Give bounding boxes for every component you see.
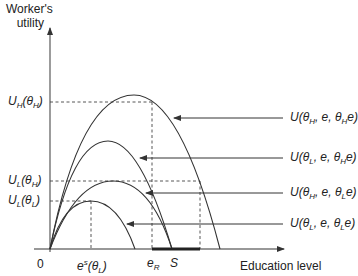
tick-es-thetaL: es(θL) — [77, 256, 107, 276]
tick-eR: eR — [147, 256, 159, 275]
curve-label-1: U(θH, e, θHe) — [290, 110, 358, 129]
tick-UL-thetaH: UL(θH) — [8, 173, 41, 192]
y-axis-label: Worker's utility — [6, 2, 44, 30]
tick-UL-thetaL: UL(θL) — [8, 193, 40, 212]
curve-thetaL-thetaL — [50, 201, 135, 249]
curve-label-3: U(θH, e, θLe) — [290, 185, 357, 204]
y-axis-label-line1: Worker's — [6, 2, 44, 16]
curve-thetaH-thetaL — [50, 181, 172, 249]
curve-thetaL-thetaH — [50, 141, 172, 249]
tick-S: S — [170, 256, 178, 270]
y-axis-label-line2: utility — [6, 16, 44, 30]
x-axis-label: Education level — [240, 259, 321, 273]
origin-label: 0 — [37, 257, 44, 271]
curve-label-4: U(θL, e, θLe) — [290, 216, 355, 235]
tick-UH-thetaH: UH(θH) — [8, 94, 43, 113]
curve-label-2: U(θL, e, θHe) — [290, 150, 357, 169]
